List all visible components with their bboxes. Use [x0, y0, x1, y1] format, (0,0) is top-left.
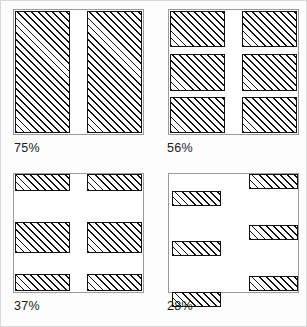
hatched-block: [87, 11, 142, 134]
hatched-block: [15, 174, 70, 191]
panel-28-box: [168, 173, 299, 293]
figure-container: 75% 56% 37% 28%: [0, 0, 307, 327]
panel-28: 28%: [154, 165, 307, 327]
hatched-block: [87, 274, 142, 291]
hatched-block: [87, 222, 142, 253]
hatched-block: [15, 222, 70, 253]
hatched-block: [170, 97, 225, 134]
panel-28-label: 28%: [167, 299, 193, 313]
hatched-block: [15, 11, 70, 134]
hatched-block: [242, 11, 297, 48]
panel-grid: 75% 56% 37% 28%: [1, 1, 307, 327]
hatched-block: [170, 54, 225, 91]
hatched-block: [249, 225, 298, 240]
hatched-block: [172, 191, 221, 206]
panel-75: 75%: [1, 1, 154, 165]
hatched-block: [87, 174, 142, 191]
hatched-block: [242, 97, 297, 134]
panel-75-label: 75%: [14, 141, 40, 155]
panel-56-box: [168, 9, 299, 135]
hatched-block: [242, 54, 297, 91]
panel-37-label: 37%: [14, 299, 40, 313]
panel-37-box: [13, 173, 144, 293]
panel-75-box: [13, 9, 144, 135]
hatched-block: [249, 276, 298, 291]
hatched-block: [15, 274, 70, 291]
panel-56-label: 56%: [167, 141, 193, 155]
hatched-block: [170, 11, 225, 48]
hatched-block: [249, 174, 298, 189]
panel-56: 56%: [154, 1, 307, 165]
panel-37: 37%: [1, 165, 154, 327]
hatched-block: [172, 241, 221, 256]
